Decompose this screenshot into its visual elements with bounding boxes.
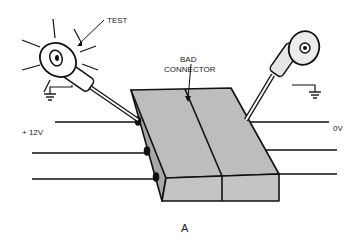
test-callout: TEST bbox=[77, 16, 128, 46]
connector-label: CONNECTOR bbox=[164, 65, 216, 74]
plus-12v-label: + 12V bbox=[22, 128, 44, 137]
test-label: TEST bbox=[107, 16, 128, 25]
arrow-head-icon bbox=[77, 41, 82, 46]
left-wires bbox=[32, 122, 155, 179]
ground-icon bbox=[44, 94, 56, 100]
test-lamp-left bbox=[22, 19, 138, 120]
panel-label: A bbox=[181, 222, 189, 234]
connector-front-face bbox=[162, 174, 279, 201]
test-lamp-right bbox=[246, 27, 324, 120]
bad-label: BAD bbox=[180, 55, 197, 64]
connector-pin-2 bbox=[145, 147, 150, 155]
ground-wire-left bbox=[50, 85, 72, 94]
ground-icon bbox=[309, 92, 321, 98]
test-arrow bbox=[79, 20, 104, 44]
zero-volt-label: 0V bbox=[333, 124, 343, 133]
ground-wire-right bbox=[292, 85, 315, 92]
connector-pin-3 bbox=[154, 173, 159, 181]
bad-connector-diagram: TEST BAD CONNECTOR + 12V 0V A bbox=[0, 0, 361, 244]
